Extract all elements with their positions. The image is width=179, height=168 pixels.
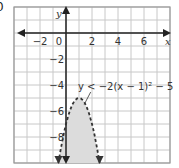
svg-text:4: 4 [115, 36, 121, 47]
svg-text:−2: −2 [49, 54, 64, 65]
x-axis-label: x [165, 36, 171, 47]
svg-text:6: 6 [141, 36, 147, 47]
svg-text:−6: −6 [49, 106, 64, 117]
svg-text:2: 2 [89, 36, 95, 47]
svg-text:−2: −2 [33, 36, 48, 47]
svg-text:−8: −8 [49, 132, 64, 143]
inequality-label: y < −2(x − 1)² − 5 [78, 81, 173, 92]
svg-text:−4: −4 [49, 80, 64, 91]
svg-text:0: 0 [56, 36, 62, 47]
y-axis-label: y [55, 8, 62, 19]
coordinate-graph: −20246−2−4−6−8 x y y < −2(x − 1)² − 5 [0, 0, 179, 168]
